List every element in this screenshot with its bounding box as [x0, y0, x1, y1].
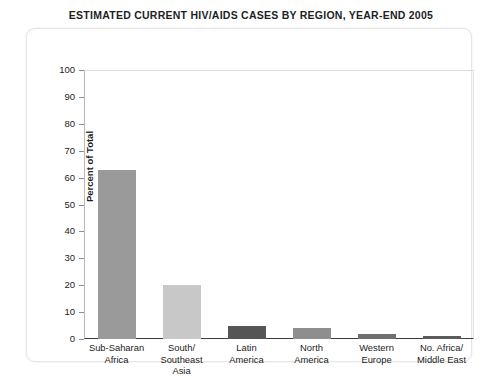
x-axis-tick-label: No. Africa/Middle East	[409, 342, 474, 376]
x-axis-tick-label: LatinAmerica	[214, 342, 279, 376]
x-axis-tick-label-line: Middle East	[410, 354, 473, 366]
y-axis-tick-label: 20	[64, 279, 75, 290]
bar-slot	[149, 70, 214, 339]
y-axis-tick: 0	[79, 339, 84, 340]
bar-slot	[344, 70, 409, 339]
y-axis-tick-label: 70	[64, 145, 75, 156]
chart-card: Percent of Total 1009080706050403020100 …	[26, 28, 472, 362]
y-axis-tick-label: 40	[64, 225, 75, 236]
bar	[98, 170, 136, 339]
bar	[358, 334, 396, 339]
y-axis-tick-label: 0	[70, 333, 75, 344]
bar	[228, 326, 266, 339]
bar-slot	[214, 70, 279, 339]
x-axis-tick-labels: Sub-SaharanAfricaSouth/SoutheastAsiaLati…	[84, 342, 474, 376]
y-axis-tick-label: 100	[59, 64, 75, 75]
x-axis-tick-label: NorthAmerica	[279, 342, 344, 376]
x-axis-tick-label: Sub-SaharanAfrica	[84, 342, 149, 376]
x-axis-tick-label-line: Western	[345, 342, 408, 354]
plot-area: 1009080706050403020100	[84, 42, 474, 339]
x-axis-tick-label-line: Latin	[215, 342, 278, 354]
x-axis-tick-label-line: Sub-Saharan	[85, 342, 148, 354]
x-axis-tick-label-line: North	[280, 342, 343, 354]
y-axis-tick-label: 10	[64, 306, 75, 317]
y-axis-tick-label: 50	[64, 199, 75, 210]
bar	[293, 328, 331, 339]
bar-slot	[84, 70, 149, 339]
y-axis-tick-label: 90	[64, 91, 75, 102]
bar-slot	[279, 70, 344, 339]
x-axis-tick-label-line: Europe	[345, 354, 408, 366]
bar-series	[84, 70, 474, 339]
x-axis-tick-label: WesternEurope	[344, 342, 409, 376]
bar	[423, 336, 461, 339]
y-axis-tick-label: 60	[64, 172, 75, 183]
y-axis-tick-label: 30	[64, 252, 75, 263]
x-axis-tick-label: South/SoutheastAsia	[149, 342, 214, 376]
x-axis-tick-label-line: Africa	[85, 354, 148, 366]
bar-slot	[409, 70, 474, 339]
x-axis-tick-label-line: Southeast	[150, 354, 213, 366]
chart-figure: ESTIMATED CURRENT HIV/AIDS CASES BY REGI…	[0, 0, 502, 376]
x-axis-tick-label-line: America	[280, 354, 343, 366]
y-axis-tick-label: 80	[64, 118, 75, 129]
x-axis-tick-label-line: South/	[150, 342, 213, 354]
chart-title: ESTIMATED CURRENT HIV/AIDS CASES BY REGI…	[0, 9, 502, 21]
x-axis-tick-label-line: America	[215, 354, 278, 366]
x-axis-tick-label-line: Asia	[150, 365, 213, 376]
x-axis-tick-label-line: No. Africa/	[410, 342, 473, 354]
bar	[163, 285, 201, 339]
